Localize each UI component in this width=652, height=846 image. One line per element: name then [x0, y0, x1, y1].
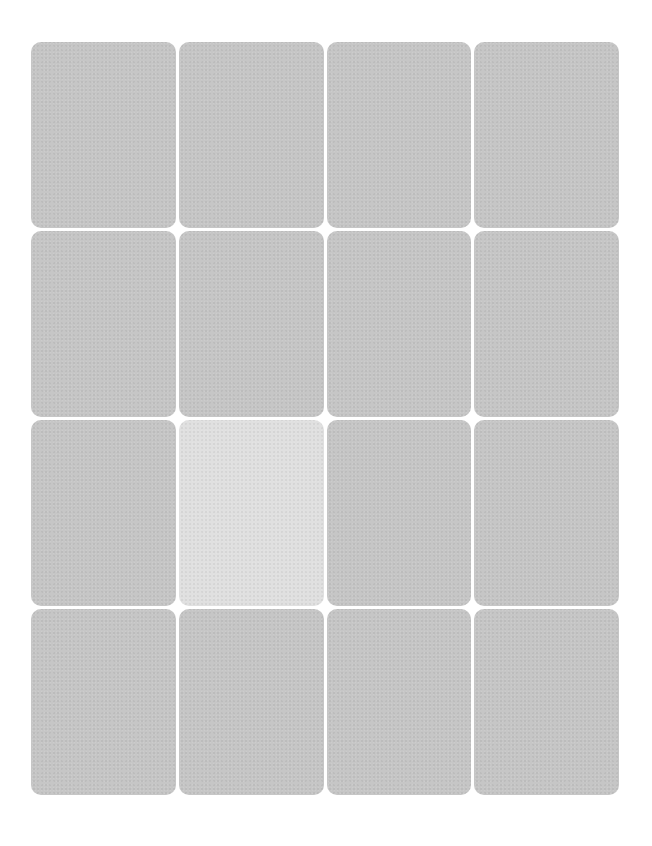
- card-r3-c4[interactable]: [474, 420, 619, 606]
- card-r3-c1[interactable]: [31, 420, 176, 606]
- card-r3-c3[interactable]: [327, 420, 472, 606]
- card-grid: [31, 42, 619, 795]
- card-r3-c2[interactable]: [179, 420, 324, 606]
- card-r4-c2[interactable]: [179, 609, 324, 795]
- card-r1-c2[interactable]: [179, 42, 324, 228]
- card-r2-c1[interactable]: [31, 231, 176, 417]
- card-r2-c4[interactable]: [474, 231, 619, 417]
- card-r4-c3[interactable]: [327, 609, 472, 795]
- card-r1-c1[interactable]: [31, 42, 176, 228]
- card-r2-c3[interactable]: [327, 231, 472, 417]
- card-r4-c4[interactable]: [474, 609, 619, 795]
- card-r1-c4[interactable]: [474, 42, 619, 228]
- card-r2-c2[interactable]: [179, 231, 324, 417]
- card-r4-c1[interactable]: [31, 609, 176, 795]
- card-r1-c3[interactable]: [327, 42, 472, 228]
